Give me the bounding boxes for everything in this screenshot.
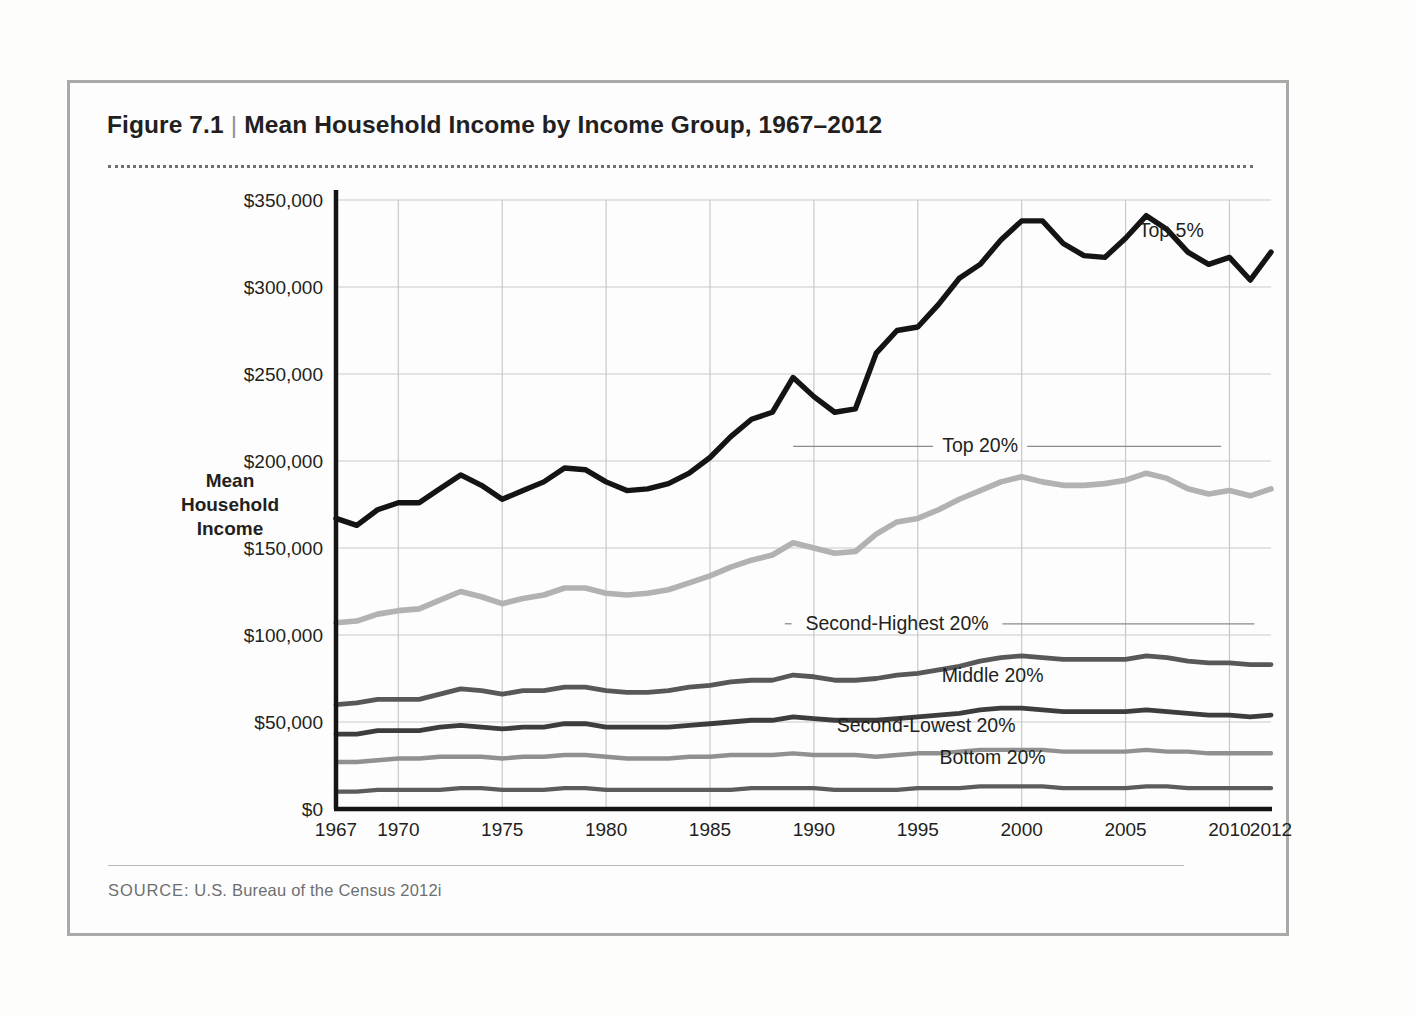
series-label-4: Second-Lowest 20%	[837, 714, 1016, 736]
x-tick-label: 1967	[315, 819, 357, 840]
x-tick-label: 2012	[1250, 819, 1292, 840]
x-axis-tick-labels: 1967197019751980198519901995200020052010…	[315, 819, 1292, 840]
series-label-2: Second-Highest 20%	[805, 612, 988, 634]
title-divider	[108, 162, 1253, 168]
series-label-3: Middle 20%	[942, 664, 1044, 686]
series-label-0: Top 5%	[1139, 219, 1204, 241]
source-label: SOURCE:	[108, 881, 189, 899]
series-line-4	[336, 750, 1271, 762]
y-tick-label: $350,000	[244, 190, 323, 211]
x-tick-label: 1970	[377, 819, 419, 840]
series-lines	[336, 216, 1271, 792]
y-tick-label: $200,000	[244, 451, 323, 472]
series-line-2	[336, 656, 1271, 705]
source-citation: U.S. Bureau of the Census 2012i	[189, 881, 441, 899]
y-tick-label: $50,000	[254, 712, 323, 733]
figure-title-text: Mean Household Income by Income Group, 1…	[244, 111, 882, 138]
source-divider	[108, 865, 1184, 866]
page-background: Figure 7.1|Mean Household Income by Inco…	[0, 0, 1415, 1015]
x-tick-label: 2010	[1208, 819, 1250, 840]
figure-number: Figure 7.1	[107, 111, 224, 138]
y-tick-label: $0	[302, 799, 323, 820]
line-chart-svg: $0$50,000$100,000$150,000$200,000$250,00…	[70, 178, 1292, 858]
figure-title: Figure 7.1|Mean Household Income by Inco…	[107, 111, 882, 139]
y-tick-label: $300,000	[244, 277, 323, 298]
x-tick-label: 1995	[897, 819, 939, 840]
x-tick-label: 2005	[1104, 819, 1146, 840]
x-tick-label: 1990	[793, 819, 835, 840]
series-line-3	[336, 708, 1271, 734]
y-axis-title: MeanHouseholdIncome	[181, 470, 279, 539]
series-label-leaders	[785, 446, 1255, 623]
x-tick-label: 1985	[689, 819, 731, 840]
figure-title-separator: |	[224, 111, 244, 138]
y-axis-title-line: Mean	[206, 470, 255, 491]
y-tick-label: $250,000	[244, 364, 323, 385]
x-tick-label: 1975	[481, 819, 523, 840]
y-tick-label: $150,000	[244, 538, 323, 559]
series-labels: Top 5%Top 20%Second-Highest 20%Middle 20…	[805, 219, 1203, 768]
series-label-5: Bottom 20%	[939, 746, 1045, 768]
y-tick-label: $100,000	[244, 625, 323, 646]
series-line-5	[336, 786, 1271, 791]
x-tick-label: 2000	[1001, 819, 1043, 840]
chart-plot: $0$50,000$100,000$150,000$200,000$250,00…	[70, 178, 1292, 858]
figure-frame: Figure 7.1|Mean Household Income by Inco…	[67, 80, 1289, 936]
y-axis-title-line: Income	[197, 518, 264, 539]
source-note: SOURCE: U.S. Bureau of the Census 2012i	[108, 881, 442, 900]
x-tick-label: 1980	[585, 819, 627, 840]
y-axis-title-line: Household	[181, 494, 279, 515]
series-label-1: Top 20%	[942, 434, 1018, 456]
